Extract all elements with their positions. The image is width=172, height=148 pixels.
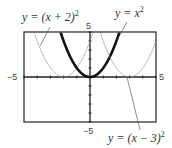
x-max-label: 5 [159,72,164,82]
x-min-label: −5 [7,72,17,82]
curve-2 [100,33,156,77]
y-min-label: −5 [83,126,93,136]
graph-figure: y = (x + 2)2 y = x2 y = (x − 3)2 5 −5 −5… [0,0,172,148]
label-x-minus-3: y = (x − 3)2 [107,130,165,145]
leader-line-x-squared [117,22,127,40]
label-x-squared: y = x2 [114,5,144,20]
leader-line-x-plus-2 [40,27,50,46]
label-x-plus-2: y = (x + 2)2 [21,9,79,24]
curves [34,33,156,77]
y-max-label: 5 [86,21,91,31]
